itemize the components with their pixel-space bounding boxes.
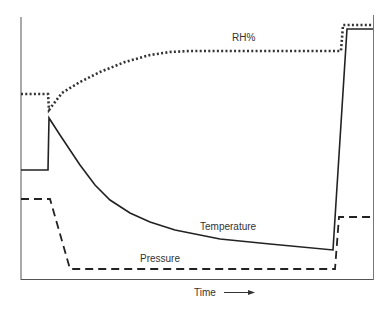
label-rh: RH% xyxy=(232,32,255,43)
series-temperature xyxy=(21,29,373,250)
chart: RH% Temperature Pressure Time xyxy=(0,0,388,311)
series-rh xyxy=(21,25,373,110)
series-layer xyxy=(21,25,373,269)
label-pressure: Pressure xyxy=(140,253,180,264)
label-temperature: Temperature xyxy=(200,221,257,232)
time-arrow-icon xyxy=(224,290,255,295)
label-time: Time xyxy=(194,287,216,298)
